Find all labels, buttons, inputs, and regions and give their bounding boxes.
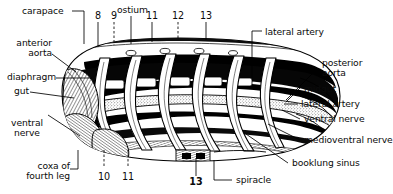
label-anterior-aorta: anterior aorta — [0, 38, 52, 59]
number-11-bottom: 11 — [121, 172, 135, 182]
label-ostium: ostium — [117, 5, 148, 15]
label-medioventral-nerve: medioventral nerve — [304, 135, 393, 145]
number-11-top: 11 — [145, 11, 159, 21]
label-lateral-artery-right: lateral artery — [301, 99, 360, 109]
label-diaphragm: diaphragm — [0, 72, 56, 82]
label-spiracle: spiracle — [236, 175, 271, 185]
label-ventral-nerve-left: ventral nerve — [4, 118, 50, 139]
number-10-bottom: 10 — [97, 172, 111, 182]
label-ventral-nerve-right: ventral nerve — [304, 114, 364, 124]
number-13-top: 13 — [199, 11, 213, 21]
number-13-bottom: 13 — [188, 177, 204, 187]
label-carapace: carapace — [22, 6, 63, 16]
number-8: 8 — [92, 11, 104, 21]
leader-spiracle — [214, 160, 232, 180]
label-coxa-of-fourth-leg: coxa of fourth leg — [0, 161, 70, 182]
label-booklung-sinus: booklung sinus — [292, 158, 360, 168]
number-12: 12 — [171, 11, 185, 21]
label-gut: gut — [0, 86, 29, 96]
label-posterior-aorta: posterior aorta — [322, 58, 362, 79]
label-midgut: midgut — [304, 84, 336, 94]
label-lateral-artery-top: lateral artery — [265, 27, 324, 37]
number-9: 9 — [108, 11, 120, 21]
